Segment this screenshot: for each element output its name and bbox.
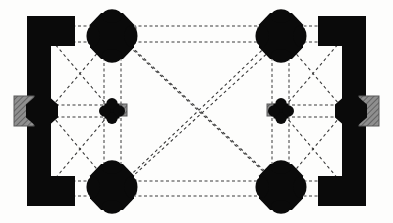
pier-mid-west-lobe-3 <box>114 105 125 116</box>
pier-se-lobe-2 <box>255 176 268 197</box>
east-wall-corner-top <box>318 16 366 46</box>
pier-mid-east-lobe-2 <box>268 105 279 116</box>
pier-ne-lobe-1 <box>271 49 291 63</box>
pier-mid-east-lobe-3 <box>283 105 294 116</box>
wall-pier-east-mid <box>335 97 367 125</box>
wall-pier-west-mid <box>26 97 58 125</box>
pier-ne-lobe-0 <box>271 9 291 23</box>
pier-sw-lobe-0 <box>102 160 122 174</box>
pier-se-lobe-3 <box>293 176 306 197</box>
west-wall-corner-bottom <box>27 176 75 206</box>
pier-ne-lobe-2 <box>255 25 268 46</box>
pier-se-lobe-0 <box>271 160 291 174</box>
west-wall-corner-top <box>27 16 75 46</box>
pier-sw-lobe-3 <box>124 176 137 197</box>
pier-sw-lobe-1 <box>102 200 122 214</box>
wall-pier-west-mid-core <box>26 97 58 125</box>
plan-canvas <box>0 0 393 223</box>
pier-ne-lobe-3 <box>293 25 306 46</box>
pier-sw-lobe-2 <box>86 176 99 197</box>
east-wall-corner-bottom <box>318 176 366 206</box>
wall-pier-east-mid-core <box>335 97 367 125</box>
pier-nw-lobe-0 <box>102 9 122 23</box>
pier-nw-lobe-2 <box>86 25 99 46</box>
pier-nw-lobe-3 <box>124 25 137 46</box>
pier-nw-lobe-1 <box>102 49 122 63</box>
pier-mid-west-lobe-2 <box>99 105 110 116</box>
pier-se-lobe-1 <box>271 200 291 214</box>
floor-plan-figure: Architectural floor plan Hall church / v… <box>0 0 393 223</box>
